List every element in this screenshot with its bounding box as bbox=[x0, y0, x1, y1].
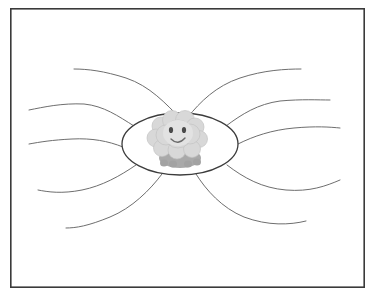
character-right-eye-icon bbox=[182, 127, 186, 133]
mind-map-canvas bbox=[0, 0, 385, 306]
mind-map-worksheet: Mind Map Worksheet smiling fluffy cloud … bbox=[0, 0, 385, 306]
character-left-eye-icon bbox=[169, 127, 173, 133]
